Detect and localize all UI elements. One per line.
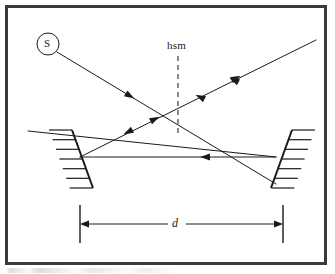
- hsm-label: hsm: [167, 40, 186, 51]
- source-label: S: [44, 38, 50, 49]
- figure-root: S hsm d: [0, 0, 335, 274]
- separation-label: d: [172, 217, 178, 229]
